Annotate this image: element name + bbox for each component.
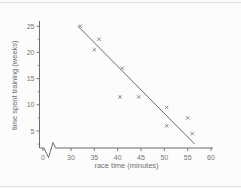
data-point (93, 48, 96, 51)
data-point (97, 38, 100, 41)
x-tick-label: 55 (184, 154, 192, 161)
y-tick-label: 20 (27, 49, 35, 56)
x-tick-label: 35 (90, 154, 98, 161)
figure: 030354045505560510152025 time spent trai… (0, 0, 241, 189)
data-point (165, 124, 168, 127)
y-tick-label: 10 (27, 101, 35, 108)
y-tick-label: 25 (27, 23, 35, 30)
x-tick-label: 30 (67, 154, 75, 161)
y-tick-label: 15 (27, 75, 35, 82)
x-axis-label: race time (minutes) (40, 162, 213, 170)
data-point (121, 66, 124, 69)
data-point (186, 116, 189, 119)
data-point (191, 132, 194, 135)
data-point (137, 95, 140, 98)
data-point (79, 25, 82, 28)
y-tick-label: 5 (31, 128, 35, 135)
trend-line (78, 26, 195, 144)
data-point (165, 106, 168, 109)
x-tick-label: 50 (160, 154, 168, 161)
data-point (118, 95, 121, 98)
y-axis-label: time spent training (weeks) (9, 22, 21, 148)
x-tick-label: 60 (207, 154, 215, 161)
x-tick-label: 0 (41, 154, 45, 161)
x-tick-label: 45 (137, 154, 145, 161)
x-tick-label: 40 (114, 154, 122, 161)
